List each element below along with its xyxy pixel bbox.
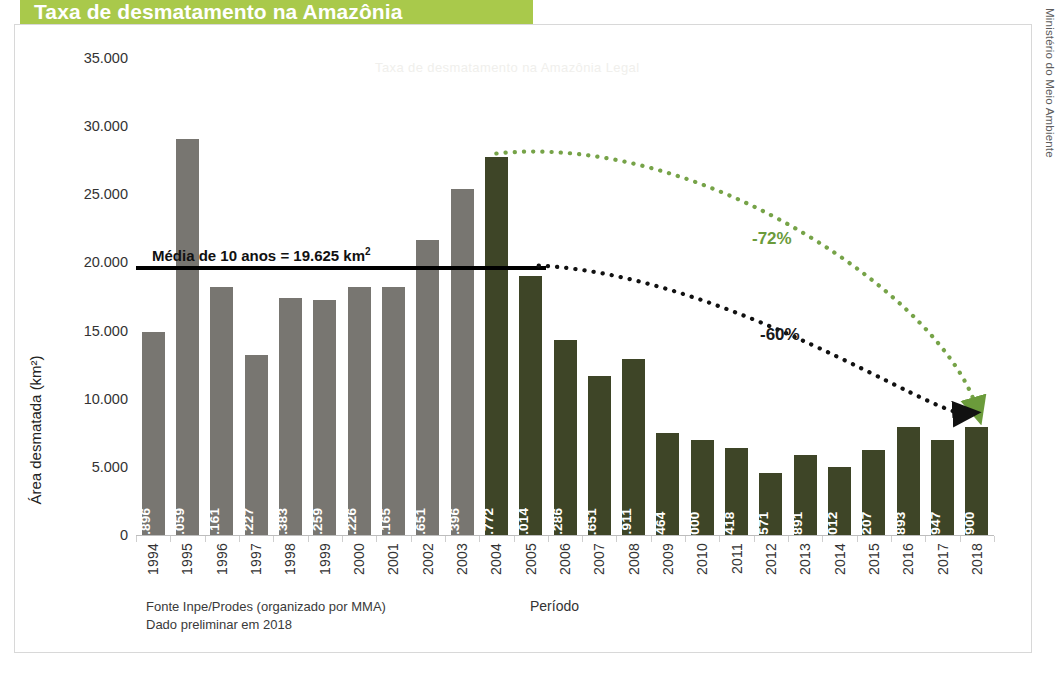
x-tick-mark xyxy=(479,536,480,542)
bar-value-label: 4.571 xyxy=(756,512,771,547)
x-tick-label: 2016 xyxy=(897,543,920,578)
y-tick-label: 35.000 xyxy=(84,50,128,66)
y-tick-label: 20.000 xyxy=(84,254,128,270)
x-tick-mark xyxy=(170,536,171,542)
x-tick-mark xyxy=(582,536,583,542)
x-tick-label: 2007 xyxy=(588,543,611,578)
x-tick-label: 1994 xyxy=(142,543,165,578)
bar: 18.165 xyxy=(382,287,405,535)
x-tick-label: 1996 xyxy=(210,543,233,578)
source-line-2: Dado preliminar em 2018 xyxy=(146,616,386,634)
bar-value-label: 5.891 xyxy=(790,512,805,547)
x-tick-mark xyxy=(719,536,720,542)
average-reference-label: Média de 10 anos = 19.625 km2 xyxy=(152,246,371,264)
bar: 18.161 xyxy=(210,287,233,535)
x-tick-mark xyxy=(857,536,858,542)
bar: 25.396 xyxy=(451,189,474,535)
y-tick-label: 30.000 xyxy=(84,118,128,134)
bar-value-label: 6.418 xyxy=(722,512,737,547)
bar: 14.896 xyxy=(142,332,165,535)
x-axis-line xyxy=(136,535,994,536)
bar: 21.651 xyxy=(416,240,439,535)
x-tick-label: 2013 xyxy=(794,543,817,578)
x-tick-mark xyxy=(273,536,274,542)
bar-value-label: 7.464 xyxy=(653,512,668,547)
y-axis-title: Área desmatada (km²) xyxy=(27,290,47,570)
bar: 7.893 xyxy=(897,427,920,535)
x-tick-mark xyxy=(925,536,926,542)
bar: 17.259 xyxy=(313,300,336,535)
x-tick-mark xyxy=(136,536,137,542)
x-tick-label: 2001 xyxy=(382,543,405,578)
x-tick-mark xyxy=(960,536,961,542)
y-axis-ticks: 05.00010.00015.00020.00025.00030.00035.0… xyxy=(46,0,128,688)
x-tick-mark xyxy=(822,536,823,542)
bar-value-label: 7.900 xyxy=(962,512,977,547)
bar: 13.227 xyxy=(245,355,268,535)
watermark-text: Taxa de desmatamento na Amazônia Legal xyxy=(375,60,640,75)
bar-value-label: 7.000 xyxy=(687,512,702,547)
x-tick-label: 2009 xyxy=(656,543,679,578)
bar-value-label: 7.893 xyxy=(893,512,908,547)
bar: 14.286 xyxy=(554,340,577,535)
y-tick-label: 10.000 xyxy=(84,391,128,407)
bar-value-label: 6.207 xyxy=(859,512,874,547)
x-tick-label: 2002 xyxy=(416,543,439,578)
x-tick-mark xyxy=(994,536,995,542)
bar: 7.464 xyxy=(656,433,679,535)
bar-value-label: 5.012 xyxy=(825,512,840,547)
x-tick-label: 2000 xyxy=(348,543,371,578)
y-axis-title-wrap: Área desmatada (km²) xyxy=(34,420,54,440)
x-tick-label: 1998 xyxy=(279,543,302,578)
x-tick-mark xyxy=(788,536,789,542)
bar: 6.418 xyxy=(725,448,748,535)
x-tick-label: 2010 xyxy=(691,543,714,578)
x-tick-label: 2006 xyxy=(554,543,577,578)
average-reference-line xyxy=(136,266,546,270)
x-tick-mark xyxy=(891,536,892,542)
bar: 5.891 xyxy=(794,455,817,535)
x-tick-label: 2018 xyxy=(965,543,988,578)
bar: 19.014 xyxy=(519,276,542,535)
x-tick-mark xyxy=(445,536,446,542)
source-line-1: Fonte Inpe/Prodes (organizado por MMA) xyxy=(146,598,386,616)
bar: 17.383 xyxy=(279,298,302,535)
bar: 4.571 xyxy=(759,473,782,535)
x-tick-label: 2017 xyxy=(931,543,954,578)
bar: 18.226 xyxy=(348,287,371,535)
x-tick-mark xyxy=(342,536,343,542)
x-tick-label: 2008 xyxy=(622,543,645,578)
y-tick-label: 15.000 xyxy=(84,323,128,339)
bar: 27.772 xyxy=(485,157,508,535)
bar-value-label: 6.947 xyxy=(928,512,943,547)
x-tick-mark xyxy=(411,536,412,542)
x-tick-label: 1997 xyxy=(245,543,268,578)
x-tick-label: 2005 xyxy=(519,543,542,578)
x-axis-title: Período xyxy=(530,598,579,614)
ministry-credit-label: Ministério do Meio Ambiente xyxy=(1044,8,1056,158)
green-arrow-label: -72% xyxy=(752,229,792,249)
x-tick-label: 2011 xyxy=(725,543,748,577)
bar: 6.207 xyxy=(862,450,885,535)
bar: 11.651 xyxy=(588,376,611,535)
x-tick-label: 1995 xyxy=(176,543,199,578)
bar: 12.911 xyxy=(622,359,645,535)
x-tick-mark xyxy=(616,536,617,542)
bar: 7.000 xyxy=(691,440,714,535)
x-tick-mark xyxy=(685,536,686,542)
y-tick-label: 5.000 xyxy=(92,459,128,475)
y-tick-label: 0 xyxy=(120,527,128,543)
y-tick-label: 25.000 xyxy=(84,186,128,202)
x-tick-mark xyxy=(514,536,515,542)
x-tick-label: 2015 xyxy=(862,543,885,578)
x-tick-label: 2012 xyxy=(759,543,782,578)
source-footnote: Fonte Inpe/Prodes (organizado por MMA) D… xyxy=(146,598,386,634)
x-tick-label: 2014 xyxy=(828,543,851,578)
ministry-credit: Ministério do Meio Ambiente xyxy=(1040,8,1060,238)
x-tick-label: 2004 xyxy=(485,543,508,578)
bar: 6.947 xyxy=(931,440,954,535)
x-tick-label: 1999 xyxy=(313,543,336,578)
x-tick-mark xyxy=(308,536,309,542)
x-tick-mark xyxy=(651,536,652,542)
x-tick-mark xyxy=(376,536,377,542)
